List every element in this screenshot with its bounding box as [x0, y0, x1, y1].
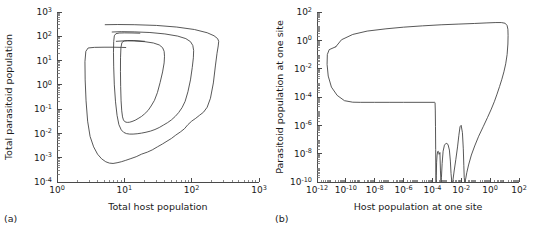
x-tick-label: 10-4 — [423, 184, 441, 196]
x-tick-label: 101 — [117, 184, 133, 196]
y-axis-title: Parasitoid population at one site — [274, 20, 285, 174]
y-tick-label: 10-8 — [294, 147, 312, 159]
x-tick-label: 10-10 — [335, 184, 357, 196]
x-tick-label: 10-12 — [306, 184, 328, 196]
panel-b: 10-1210-1010-810-610-410-210010210-1010-… — [271, 0, 542, 231]
y-tick-label: 10-2 — [34, 127, 52, 139]
panel-label: (b) — [275, 213, 288, 224]
axis-frame — [317, 12, 519, 182]
data-curve — [112, 32, 193, 134]
x-tick-label: 103 — [251, 184, 267, 196]
y-tick-label: 10-4 — [294, 91, 312, 103]
y-tick-label: 10-6 — [294, 119, 312, 131]
x-tick-label: 102 — [184, 184, 200, 196]
x-tick-label: 100 — [49, 184, 65, 196]
y-tick-label: 102 — [36, 30, 52, 42]
panel-a: 10010110210310-410-310-210-1100101102103… — [0, 0, 271, 231]
y-axis-title: Total parasitoid population — [3, 34, 14, 161]
y-tick-label: 101 — [36, 54, 52, 65]
x-tick-label: 10-8 — [366, 184, 384, 196]
y-tick-label: 100 — [36, 79, 52, 91]
y-tick-label: 10-2 — [294, 62, 312, 74]
x-tick-label: 100 — [482, 184, 498, 196]
x-axis-title: Total host population — [107, 201, 207, 212]
data-curve — [85, 25, 219, 164]
y-tick-label: 10-3 — [34, 151, 52, 163]
figure-two-panel-phase-plots: 10010110210310-410-310-210-1100101102103… — [0, 0, 542, 231]
y-tick-label: 103 — [36, 6, 52, 18]
x-axis-title: Host population at one site — [354, 201, 483, 212]
axis-frame — [57, 12, 259, 182]
y-tick-label: 100 — [296, 34, 312, 46]
data-curve — [116, 41, 164, 123]
panel-a-plot: 10010110210310-410-310-210-1100101102103… — [0, 0, 271, 231]
x-tick-label: 10-2 — [452, 184, 470, 196]
panel-b-plot: 10-1210-1010-810-610-410-210010210-1010-… — [271, 0, 542, 231]
data-curve — [327, 23, 508, 182]
y-tick-label: 102 — [296, 6, 312, 18]
x-tick-label: 102 — [511, 184, 527, 196]
panel-label: (a) — [4, 213, 17, 224]
y-tick-label: 10-1 — [34, 103, 52, 115]
x-tick-label: 10-6 — [395, 184, 413, 196]
